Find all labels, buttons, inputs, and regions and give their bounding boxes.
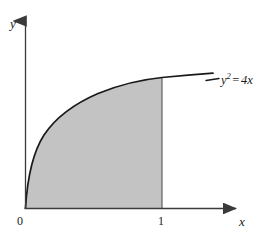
shaded-region [26, 78, 163, 209]
math-figure: y x 0 1 y2=4x [0, 0, 272, 241]
y-axis-label: y [10, 17, 16, 30]
x-tick-label-1: 1 [158, 215, 164, 227]
origin-tick-label: 0 [17, 215, 23, 227]
figure-canvas [0, 0, 272, 241]
x-axis-label: x [239, 215, 245, 228]
equation-right-side: 4x [241, 73, 253, 87]
curve-equation-label: y2=4x [221, 74, 253, 87]
equation-leader-line [206, 79, 219, 81]
equation-operator: = [231, 73, 241, 87]
